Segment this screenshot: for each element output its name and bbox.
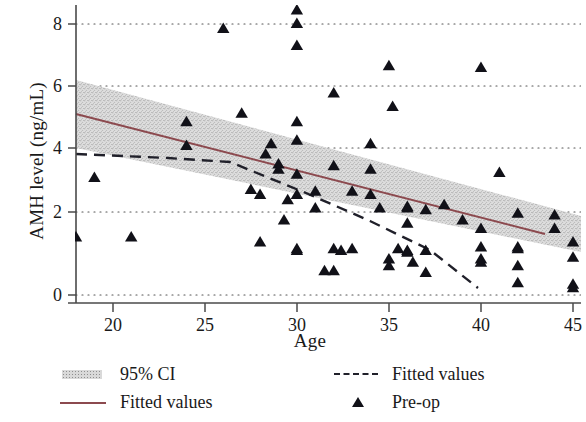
data-point-marker [401, 217, 413, 228]
data-point-marker [254, 236, 266, 247]
data-point-marker [512, 243, 524, 254]
ci-band [76, 80, 581, 252]
legend-item-dashed-fit: Fitted values [330, 360, 485, 388]
data-point-marker [309, 202, 321, 213]
y-tick-8: 8 [22, 14, 62, 35]
legend: 95% CI Fitted values Fitted values Pre-o… [0, 360, 581, 422]
data-point-marker [217, 23, 229, 34]
solid-line-swatch-icon [58, 391, 116, 413]
legend-label-solid-fit: Fitted values [116, 392, 213, 413]
data-point-marker [125, 231, 137, 242]
data-point-marker [407, 256, 419, 267]
legend-item-solid-fit: Fitted values [58, 388, 213, 416]
legend-column-left: 95% CI Fitted values [58, 360, 213, 416]
data-point-marker [475, 241, 487, 252]
legend-label-dashed-fit: Fitted values [388, 364, 485, 385]
data-point-marker [291, 244, 303, 255]
x-tick-20: 20 [91, 315, 135, 336]
data-point-marker [383, 60, 395, 70]
x-tick-45: 45 [551, 315, 586, 336]
x-tick-25: 25 [183, 315, 227, 336]
legend-column-right: Fitted values Pre-op [330, 360, 485, 416]
data-point-marker [291, 17, 303, 28]
data-point-marker [475, 62, 487, 72]
legend-label-preop: Pre-op [388, 392, 440, 413]
data-point-marker [70, 231, 82, 242]
data-point-marker [328, 265, 340, 276]
dashed-line-swatch-icon [330, 363, 388, 385]
y-tick-6: 6 [22, 76, 62, 97]
data-point-marker [512, 277, 524, 288]
y-tick-0: 0 [22, 285, 62, 306]
ci-band-swatch-icon [58, 363, 116, 385]
legend-item-preop: Pre-op [330, 388, 485, 416]
data-point-marker [493, 167, 505, 178]
data-point-marker [291, 116, 303, 127]
x-tick-35: 35 [367, 315, 411, 336]
x-tick-30: 30 [275, 315, 319, 336]
y-tick-4: 4 [22, 138, 62, 159]
data-point-marker [346, 243, 358, 254]
triangle-marker-swatch-icon [330, 391, 388, 413]
data-point-marker [392, 243, 404, 254]
data-point-marker [278, 214, 290, 225]
data-point-marker [420, 266, 432, 277]
solid-fit-line [76, 114, 545, 234]
y-tick-2: 2 [22, 202, 62, 223]
data-point-marker [567, 251, 579, 262]
data-point-marker [235, 107, 247, 118]
data-point-marker [364, 138, 376, 149]
data-point-marker [291, 4, 303, 15]
x-tick-40: 40 [459, 315, 503, 336]
legend-label-ci: 95% CI [116, 364, 176, 385]
data-point-marker [88, 172, 100, 183]
data-point-marker [245, 183, 257, 194]
data-point-marker [386, 100, 398, 111]
legend-item-ci: 95% CI [58, 360, 213, 388]
data-point-marker [328, 87, 340, 98]
data-point-marker [291, 40, 303, 51]
data-point-marker [512, 260, 524, 271]
